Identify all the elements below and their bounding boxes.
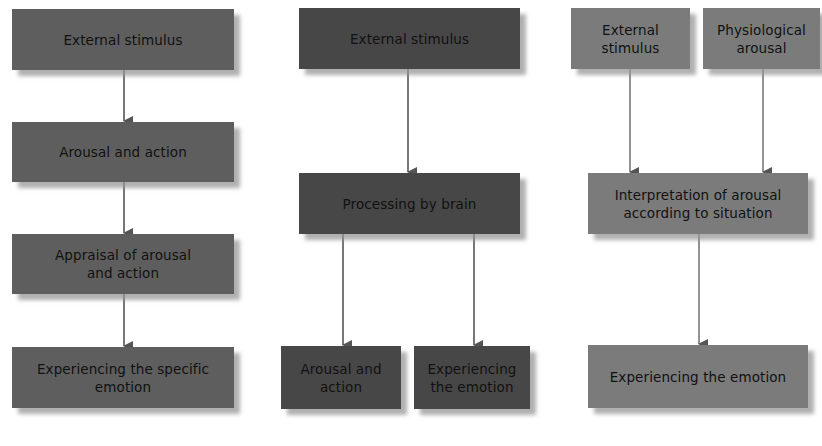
node-label: Arousal and action [53, 143, 193, 161]
node-external-stimulus: External stimulus [571, 8, 690, 69]
node-external-stimulus: External stimulus [299, 8, 520, 69]
node-physiological-arousal: Physiological arousal [703, 8, 820, 69]
node-arousal-and-action: Arousal and action [12, 122, 234, 182]
node-label: Experiencing the specific emotion [12, 360, 234, 396]
node-experiencing-emotion: Experiencing the emotion [414, 346, 530, 409]
node-label: Experiencing the emotion [604, 368, 793, 386]
node-appraisal: Appraisal of arousal and action [12, 234, 234, 294]
node-external-stimulus: External stimulus [12, 9, 234, 70]
node-arousal-and-action: Arousal and action [281, 346, 401, 409]
node-label: Experiencing the emotion [414, 360, 530, 396]
node-interpretation-of-arousal: Interpretation of arousal according to s… [588, 173, 808, 234]
node-label: Interpretation of arousal according to s… [588, 186, 808, 222]
node-label: Physiological arousal [703, 21, 820, 57]
node-label: External stimulus [571, 21, 690, 57]
node-processing-by-brain: Processing by brain [299, 173, 520, 234]
node-label: Arousal and action [281, 360, 401, 396]
node-experiencing-specific-emotion: Experiencing the specific emotion [12, 347, 234, 408]
node-experiencing-emotion: Experiencing the emotion [588, 345, 808, 408]
node-label: External stimulus [57, 31, 188, 49]
node-label: External stimulus [344, 30, 475, 48]
node-label: Processing by brain [337, 195, 483, 213]
node-label: Appraisal of arousal and action [12, 246, 234, 282]
